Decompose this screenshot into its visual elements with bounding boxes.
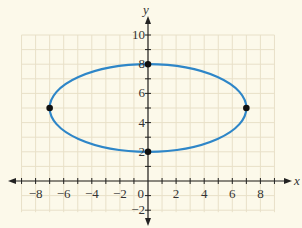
data-point	[145, 61, 152, 68]
x-tick-label: −2	[113, 186, 127, 201]
data-point	[243, 105, 250, 112]
y-axis-down-arrow-icon	[145, 218, 151, 226]
axes	[8, 16, 292, 226]
x-tick-label: −6	[57, 186, 71, 201]
y-axis-label: y	[141, 2, 149, 17]
ellipse-graph: −8−6−4−224680−2246810xy	[0, 0, 302, 228]
x-axis-label: x	[293, 173, 300, 188]
y-tick-label: −2	[131, 202, 145, 217]
x-tick-label: 8	[257, 186, 264, 201]
x-tick-label: −4	[85, 186, 99, 201]
y-tick-label: 10	[132, 27, 145, 42]
x-tick-label: 2	[173, 186, 180, 201]
x-tick-label: 4	[201, 186, 208, 201]
x-tick-label: −8	[29, 186, 43, 201]
origin-label: 0	[138, 186, 145, 201]
tick-labels: −8−6−4−224680−2246810xy	[29, 2, 300, 217]
data-point	[46, 105, 53, 112]
y-tick-label: 2	[139, 144, 146, 159]
data-point	[145, 149, 152, 156]
y-tick-label: 8	[139, 56, 146, 71]
x-axis-right-arrow-icon	[284, 178, 292, 184]
x-axis-left-arrow-icon	[8, 178, 16, 184]
x-tick-label: 6	[229, 186, 236, 201]
y-tick-label: 6	[139, 85, 146, 100]
y-tick-label: 4	[139, 115, 146, 130]
y-axis-up-arrow-icon	[145, 16, 151, 24]
